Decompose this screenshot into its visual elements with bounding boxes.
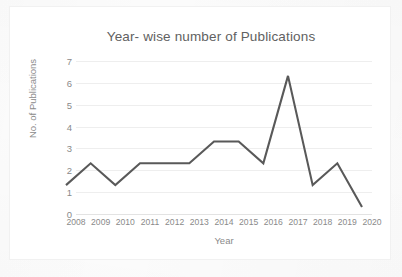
y-tick-label: 3 xyxy=(50,143,72,154)
y-tick-label: 2 xyxy=(50,165,72,176)
plot-area xyxy=(76,61,372,214)
y-tick-label: 5 xyxy=(50,99,72,110)
y-tick-label: 7 xyxy=(50,56,72,67)
y-tick-label: 6 xyxy=(50,77,72,88)
y-tick-label: 4 xyxy=(50,121,72,132)
y-axis-title: No. of Publications xyxy=(27,44,38,154)
gridline xyxy=(76,61,372,62)
x-axis-tick-labels: 2008200920102011201220132014201520162017… xyxy=(76,217,372,231)
y-tick-label: 1 xyxy=(50,187,72,198)
gridline xyxy=(76,83,372,84)
chart-title: Year- wise number of Publications xyxy=(10,29,402,44)
chart-container: Year- wise number of Publications No. of… xyxy=(9,6,391,260)
x-axis-title: Year xyxy=(76,235,372,246)
x-axis-line xyxy=(76,214,372,215)
gridline xyxy=(76,127,372,128)
gridline xyxy=(76,192,372,193)
x-tick-label: 2020 xyxy=(355,217,389,227)
gridline xyxy=(76,105,372,106)
y-axis-tick-labels: 76543210 xyxy=(48,61,72,214)
gridline xyxy=(76,148,372,149)
gridline xyxy=(76,170,372,171)
